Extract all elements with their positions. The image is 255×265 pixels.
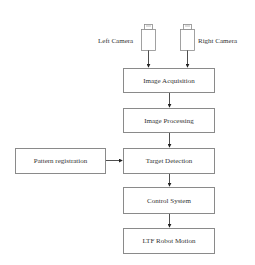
left-camera-label: Left Camera xyxy=(98,37,133,45)
right-camera-icon xyxy=(181,25,195,51)
node-image-processing: Image Processing xyxy=(123,108,215,133)
node-label: Control System xyxy=(147,197,191,205)
right-camera-label: Right Camera xyxy=(198,37,237,45)
node-label: Target Detection xyxy=(146,157,193,165)
node-pattern-registration: Pattern registration xyxy=(15,148,106,174)
node-image-acquisition: Image Acquisition xyxy=(123,68,215,93)
node-control-system: Control System xyxy=(123,187,215,214)
node-target-detection: Target Detection xyxy=(123,148,215,174)
node-label: LTF Robot Motion xyxy=(142,237,195,245)
node-ltf-robot-motion: LTF Robot Motion xyxy=(123,228,215,254)
node-label: Image Acquisition xyxy=(143,77,195,85)
node-label: Image Processing xyxy=(144,117,194,125)
node-label: Pattern registration xyxy=(34,157,87,165)
left-camera-icon xyxy=(142,25,156,51)
